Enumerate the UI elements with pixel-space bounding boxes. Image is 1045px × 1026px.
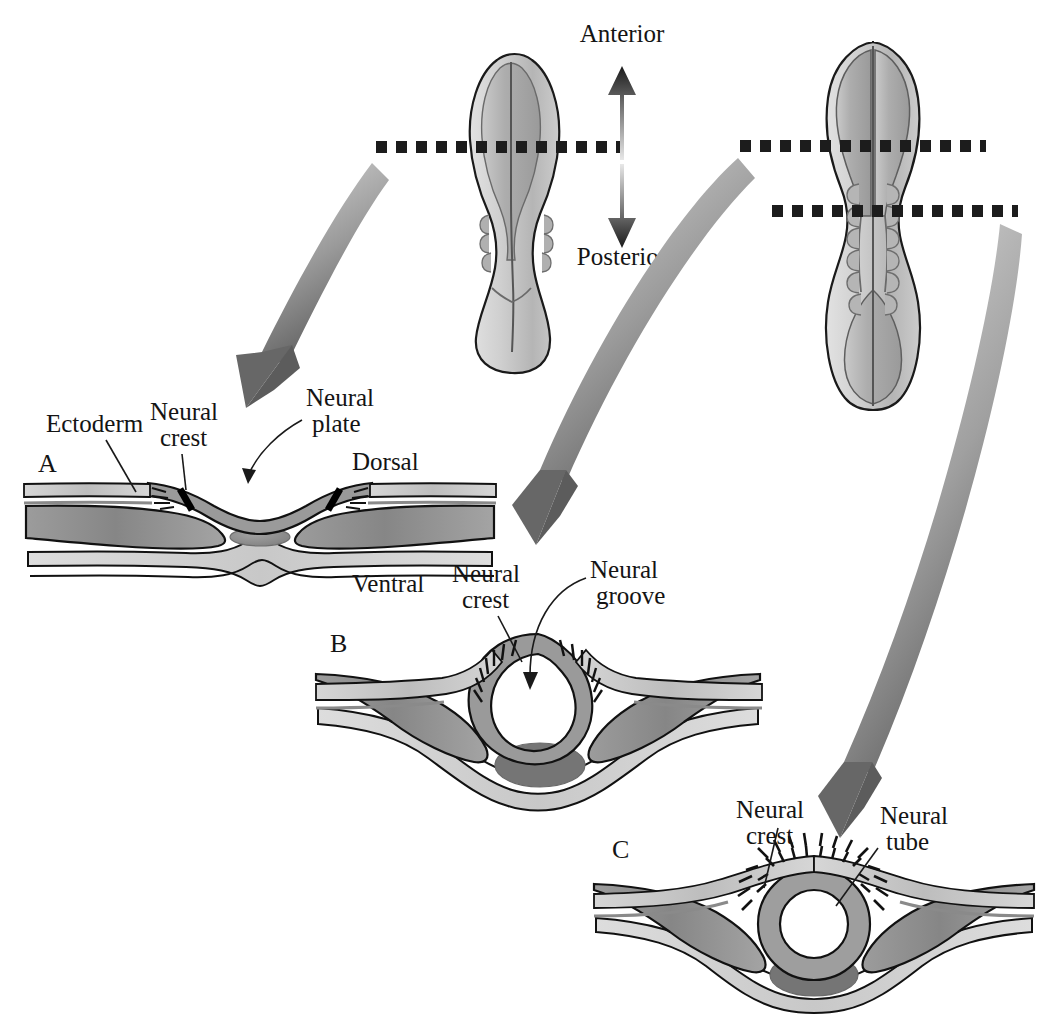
panel-a: A [24,384,496,597]
embryo-right [740,42,1018,410]
panel-a-ectoderm-left-underline [24,502,152,503]
panel-a-plate-label-line2: plate [312,410,361,437]
panel-c-crest-label-line2: crest [746,822,793,849]
panel-a-mesoderm-left [26,506,225,549]
panel-a-plate-label-line1: Neural [306,384,374,411]
panel-a-ectoderm-right [370,483,496,497]
panel-a-plate-leader [248,420,302,476]
anterior-arrow [608,66,636,160]
panel-c-tube-label-line1: Neural [880,802,948,829]
panel-c-letter: C [612,835,629,864]
pointer-arrow-to-panel-a [236,163,389,408]
panel-a-ectoderm-label: Ectoderm [46,410,144,437]
posterior-arrow [608,164,636,248]
panel-a-plate-arrowhead [242,468,256,484]
panel-c-neural-tube-lumen [780,890,848,958]
panel-b-groove-arrowhead [523,672,538,690]
panel-a-mesoderm-right [295,506,494,549]
panel-a-crest-label-line2: crest [160,424,207,451]
panel-a-letter: A [38,449,57,478]
panel-a-ventral-label: Ventral [352,570,424,597]
panel-b-crest-label-line1: Neural [452,560,520,587]
panel-b-groove-label-line2: groove [596,582,665,609]
panel-b-groove-label-line1: Neural [590,556,658,583]
panel-c: C [594,796,1034,1013]
panel-c-tube-label-line2: tube [886,828,929,855]
panel-a-crest-label-line1: Neural [150,398,218,425]
neurulation-figure: Anterior Posterior [0,0,1045,1026]
panel-a-ectoderm-left [24,483,150,497]
figure-canvas: Anterior Posterior [0,0,1045,1026]
panel-c-crest-label-line1: Neural [736,796,804,823]
axis-arrows [608,66,636,248]
embryo-left [376,54,622,373]
panel-a-crest-leader [182,454,186,490]
anterior-label: Anterior [580,20,665,47]
panel-a-ectoderm-right-underline [368,502,496,503]
panel-a-dorsal-label: Dorsal [352,448,419,475]
panel-b-letter: B [330,629,347,658]
panel-b-crest-label-line2: crest [462,586,509,613]
